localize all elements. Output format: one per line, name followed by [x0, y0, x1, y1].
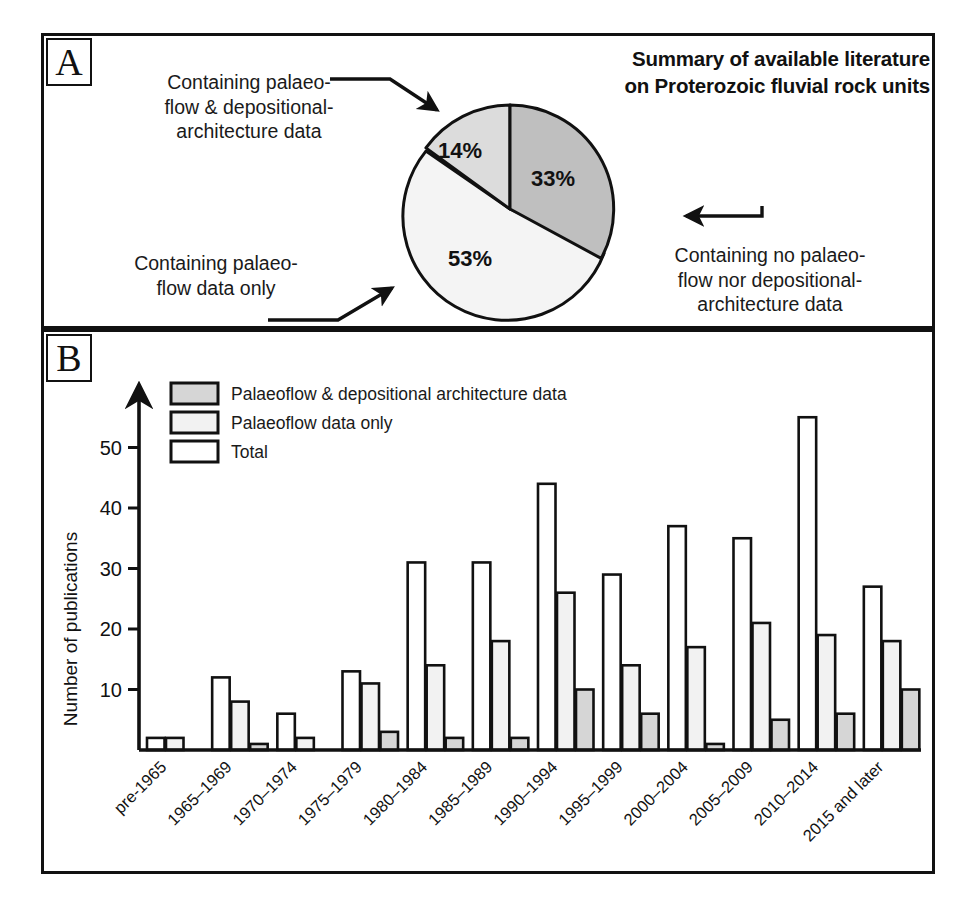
bar-chart: 1020304050 pre-19651965–19691970–1974197…	[41, 329, 935, 874]
x-axis-label: 1970–1974	[229, 757, 300, 828]
legend-label: Palaeoflow & depositional architecture d…	[231, 384, 567, 404]
bar-palaeoflow-data-only	[296, 738, 314, 750]
bar-palaeoflow-data-only	[687, 647, 705, 750]
y-tick-label: 30	[100, 558, 122, 580]
bar-total	[799, 417, 817, 750]
legend-swatch	[171, 441, 218, 462]
bar-total	[734, 538, 752, 750]
bar-palaeoflow-depositional-architecture-data	[772, 720, 790, 750]
chart-legend: Palaeoflow & depositional architecture d…	[171, 383, 567, 462]
x-axis-label: 1965–1969	[164, 757, 235, 828]
y-tick-label: 20	[100, 618, 122, 640]
x-axis-label: 1980–1984	[359, 757, 430, 828]
bar-palaeoflow-data-only	[166, 738, 184, 750]
figure-root: A Summary of available literature on Pro…	[0, 0, 976, 913]
bar-total	[864, 587, 882, 750]
bar-palaeoflow-depositional-architecture-data	[381, 732, 399, 750]
legend-swatch	[171, 383, 218, 404]
bar-chart-panel: 1020304050 pre-19651965–19691970–1974197…	[41, 329, 935, 874]
bar-palaeoflow-depositional-architecture-data	[446, 738, 464, 750]
x-axis-label: 1975–1979	[294, 757, 365, 828]
arrow-both	[330, 79, 437, 110]
y-axis-title: Number of publications	[60, 532, 81, 726]
bar-palaeoflow-depositional-architecture-data	[511, 738, 529, 750]
bar-palaeoflow-depositional-architecture-data	[902, 690, 920, 751]
bar-total	[473, 562, 491, 750]
bar-total	[538, 484, 556, 750]
bar-palaeoflow-data-only	[883, 641, 901, 750]
bar-palaeoflow-data-only	[231, 702, 249, 750]
x-axis-label: 2005–2009	[685, 757, 756, 828]
legend-label: Total	[231, 442, 268, 462]
x-axis-label: 1990–1994	[490, 757, 561, 828]
bar-palaeoflow-depositional-architecture-data	[576, 690, 594, 751]
x-axis-label: 2000–2004	[620, 757, 691, 828]
x-axis-labels: pre-19651965–19691970–19741975–19791980–…	[110, 757, 887, 845]
arrow-flow-only	[268, 288, 392, 320]
x-axis-label: 1995–1999	[555, 757, 626, 828]
bar-palaeoflow-data-only	[557, 593, 575, 750]
bar-palaeoflow-data-only	[427, 665, 445, 750]
bar-palaeoflow-data-only	[362, 683, 380, 750]
bar-palaeoflow-depositional-architecture-data	[837, 714, 855, 750]
bar-total	[147, 738, 165, 750]
x-axis-label: 1985–1989	[424, 757, 495, 828]
legend-swatch	[171, 412, 218, 433]
callout-arrows	[0, 0, 976, 330]
bar-total	[408, 562, 426, 750]
y-tick-label: 50	[100, 437, 122, 459]
legend-label: Palaeoflow data only	[231, 413, 393, 433]
bar-total	[668, 526, 686, 750]
x-axis-label: 2010–2014	[750, 757, 821, 828]
bar-total	[343, 671, 361, 750]
bar-palaeoflow-data-only	[818, 635, 836, 750]
bar-groups	[147, 417, 919, 750]
y-tick-label: 40	[100, 497, 122, 519]
y-tick-label: 10	[100, 679, 122, 701]
bar-total	[603, 575, 621, 750]
bar-total	[277, 714, 295, 750]
bar-palaeoflow-data-only	[622, 665, 640, 750]
bar-palaeoflow-data-only	[492, 641, 510, 750]
bar-palaeoflow-depositional-architecture-data	[641, 714, 659, 750]
arrow-none	[686, 206, 762, 216]
y-axis-ticks: 1020304050	[100, 437, 139, 701]
bar-total	[212, 677, 230, 750]
x-axis-label: pre-1965	[110, 757, 169, 816]
bar-palaeoflow-data-only	[753, 623, 771, 750]
